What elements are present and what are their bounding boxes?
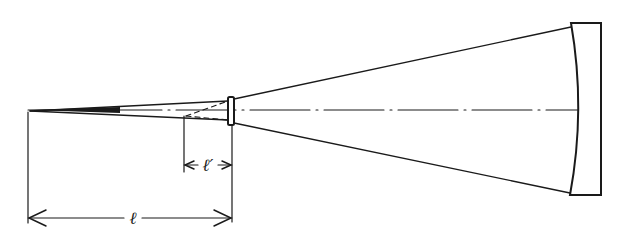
lower-ray-primary [234, 123, 570, 193]
upper-ray-primary [234, 27, 571, 99]
secondary-distance-label: ℓ′ [203, 155, 214, 175]
lower-ray-focus [30, 111, 228, 120]
secondary-element [228, 97, 234, 125]
focal-distance-label: ℓ [129, 208, 136, 228]
optical-diagram: ℓ′ ℓ [0, 0, 623, 237]
primary-mirror [570, 23, 601, 195]
